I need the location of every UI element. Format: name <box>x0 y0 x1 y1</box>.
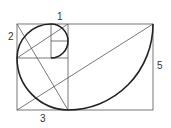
label-three: 3 <box>40 113 46 124</box>
label-one: 1 <box>57 11 63 22</box>
label-five: 5 <box>157 60 163 71</box>
golden-spiral-diagram: 1 2 3 5 <box>0 0 171 128</box>
label-two: 2 <box>8 31 14 42</box>
grid-lines <box>17 24 153 110</box>
diagonal-long <box>17 24 153 110</box>
